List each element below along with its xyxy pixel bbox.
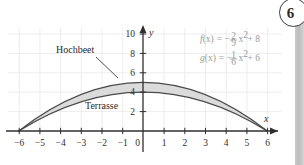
y-axis-name-label: y: [148, 27, 154, 38]
y-tick-label: 4: [130, 87, 135, 97]
x-tick-label: 2: [182, 138, 187, 148]
x-tick-label: −1: [118, 138, 128, 148]
x-axis-name-label: x: [263, 113, 269, 124]
equation-g-denominator: 6: [231, 57, 236, 67]
x-tick-label: −6: [14, 138, 24, 148]
figure-page: −6 −5 −4 −3 −2 −1 1 2 3 4 5 6 0 2 4 6 8 …: [0, 0, 304, 165]
plot-svg: −6 −5 −4 −3 −2 −1 1 2 3 4 5 6 0 2 4 6 8 …: [0, 0, 290, 165]
equation-f-denominator: 9: [231, 38, 236, 48]
y-tick-label: 2: [130, 107, 135, 117]
hochbeet-leader-line: [96, 57, 118, 78]
x-tick-label: −5: [35, 138, 45, 148]
equation-g-arg: (x): [205, 53, 216, 64]
equation-f-label: f(x)= − 2 9 x 2 + 8: [200, 30, 260, 48]
x-tick-label: −4: [56, 138, 66, 148]
x-tick-label: 3: [203, 138, 208, 148]
x-tick-label: 4: [224, 138, 229, 148]
origin-label: 0: [135, 138, 140, 148]
x-tick-label: 6: [265, 138, 270, 148]
exercise-number-badge: 6: [279, 0, 304, 27]
equation-g-equals: = −: [219, 53, 232, 63]
x-axis-arrowhead: [270, 128, 278, 135]
y-tick-label: 8: [130, 49, 135, 59]
y-tick-label: 10: [126, 29, 136, 39]
annotation-terrasse-label: Terrasse: [85, 100, 119, 111]
y-axis-arrowhead: [140, 25, 147, 33]
equation-f-equals: = −: [217, 34, 230, 44]
coordinate-plot: −6 −5 −4 −3 −2 −1 1 2 3 4 5 6 0 2 4 6 8 …: [0, 0, 290, 165]
y-tick-label: 6: [130, 68, 135, 78]
equation-f-arg: (x): [203, 34, 214, 45]
x-tick-label: 5: [245, 138, 250, 148]
equation-g-constant: + 6: [248, 53, 261, 63]
annotation-hochbeet-label: Hochbeet: [56, 44, 95, 55]
x-tick-label: −3: [76, 138, 86, 148]
x-tick-label: −2: [97, 138, 107, 148]
svg-text:f(x)= −: f(x)= −: [200, 34, 230, 45]
exercise-number-text: 6: [280, 0, 301, 28]
equation-f-constant: + 8: [248, 34, 261, 44]
svg-text:g(x)= −: g(x)= −: [200, 53, 232, 64]
equation-g-label: g(x)= − 1 6 x 2 + 6: [200, 49, 260, 67]
x-tick-label: 1: [162, 138, 167, 148]
page-edge-bar: [295, 22, 304, 165]
